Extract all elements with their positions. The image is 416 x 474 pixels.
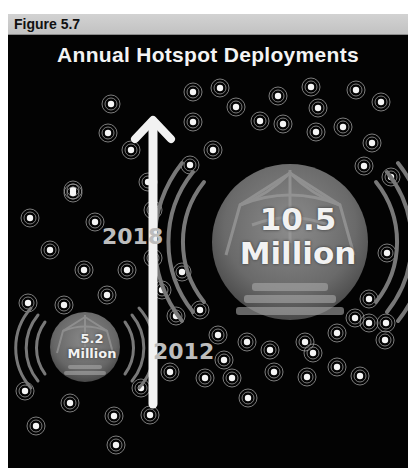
hotspot-dot-icon <box>98 286 116 304</box>
hotspot-dot-icon <box>328 358 346 376</box>
hotspot-dot-icon <box>302 78 320 96</box>
hotspot-dot-icon <box>377 314 395 332</box>
hotspot-dot-icon <box>328 324 346 342</box>
stat-2018-value: 10.5 <box>218 202 378 236</box>
hotspot-dot-icon <box>238 333 256 351</box>
hotspot-dot-icon <box>184 113 202 131</box>
hotspot-dot-icon <box>215 351 233 369</box>
hotspot-dot-icon <box>372 93 390 111</box>
hotspot-dot-icon <box>304 344 322 362</box>
hotspot-dot-icon <box>181 156 199 174</box>
hotspot-dot-icon <box>239 389 257 407</box>
hotspot-dot-icon <box>107 436 125 454</box>
hotspot-dot-icon <box>99 124 117 142</box>
hotspot-dot-icon <box>227 98 245 116</box>
hotspot-dot-icon <box>307 123 325 141</box>
stat-2012: 5.2 Million <box>55 331 129 361</box>
stat-2018: 10.5 Million <box>218 202 378 270</box>
hotspot-dot-icon <box>211 79 229 97</box>
hotspot-dot-icon <box>161 363 179 381</box>
hotspot-dot-icon <box>105 407 123 425</box>
hotspot-dot-icon <box>351 367 369 385</box>
hotspot-dot-icon <box>27 417 45 435</box>
hotspot-dot-icon <box>261 341 279 359</box>
hotspot-dot-icon <box>378 244 396 262</box>
hotspot-dot-icon <box>376 331 394 349</box>
hotspot-dot-icon <box>196 369 214 387</box>
stat-2012-value: 5.2 <box>55 331 129 346</box>
hotspot-dot-icon <box>118 261 136 279</box>
hotspot-dot-icon <box>64 184 82 202</box>
hotspot-dot-icon <box>132 379 150 397</box>
stat-2018-unit: Million <box>218 236 378 270</box>
hotspot-dot-icon <box>16 382 34 400</box>
hotspot-dot-icon <box>251 112 269 130</box>
stat-2012-unit: Million <box>55 346 129 361</box>
hotspot-dot-icon <box>355 157 373 175</box>
hotspot-dot-icon <box>265 363 283 381</box>
hotspot-dot-icon <box>55 296 73 314</box>
hotspot-dot-icon <box>141 406 159 424</box>
hotspot-dot-icon <box>122 141 140 159</box>
hotspot-dot-icon <box>298 368 316 386</box>
hotspot-dot-icon <box>61 394 79 412</box>
year-label-2018: 2018 <box>102 226 163 248</box>
hotspot-dot-icon <box>21 209 39 227</box>
hotspot-dot-icon <box>41 241 59 259</box>
hotspot-dot-icon <box>223 369 241 387</box>
hotspot-dot-icon <box>360 290 378 308</box>
hotspot-dot-icon <box>184 83 202 101</box>
chart-title: Annual Hotspot Deployments <box>8 43 408 67</box>
hotspot-dot-icon <box>269 87 287 105</box>
hotspot-dot-icon <box>347 81 365 99</box>
hotspot-dot-icon <box>204 141 222 159</box>
hotspot-dot-icon <box>274 115 292 133</box>
hotspot-dot-icon <box>334 118 352 136</box>
year-label-2012: 2012 <box>153 341 214 363</box>
infographic-panel: Annual Hotspot Deployments 2018 2012 10.… <box>8 35 408 468</box>
hotspot-dot-icon <box>102 95 120 113</box>
hotspot-dot-icon <box>360 314 378 332</box>
hotspot-dot-icon <box>363 134 381 152</box>
figure-header-bar: Figure 5.7 <box>8 14 408 35</box>
figure-label: Figure 5.7 <box>14 16 80 32</box>
hotspot-dot-icon <box>309 99 327 117</box>
hotspot-dot-icon <box>75 261 93 279</box>
